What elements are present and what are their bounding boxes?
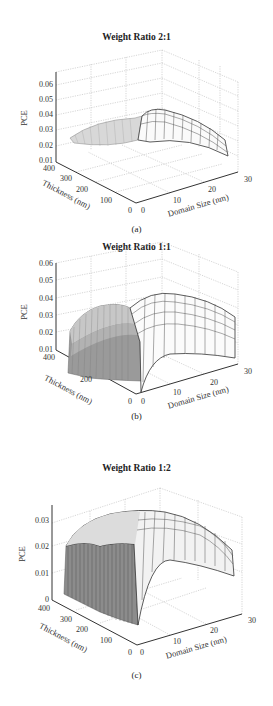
tick-label: 0 <box>141 397 145 406</box>
tick-label: 300 <box>60 174 72 183</box>
tick-label: 400 <box>38 604 50 613</box>
tick-label: 0.03 <box>39 311 53 320</box>
tick-label: 400 <box>43 164 55 173</box>
panel-c: Weight Ratio 1:2 <box>0 460 273 706</box>
tick-label: 10 <box>173 196 181 205</box>
z-axis-label-a: PCE <box>19 110 29 126</box>
tick-label: 30 <box>248 616 256 625</box>
tick-label: 0.02 <box>39 328 53 337</box>
z-axis-ticks-c: 0.03 0.02 0.01 0 <box>35 516 49 604</box>
tick-label: 0.04 <box>39 294 53 303</box>
tick-label: 0.05 <box>39 95 53 104</box>
z-axis-label-c: PCE <box>17 546 27 562</box>
tick-label: 30 <box>244 367 252 376</box>
tick-label: 0 <box>45 595 49 604</box>
surface-plot-b: 0.06 0.05 0.04 0.03 0.02 0.01 PCE 400 20… <box>0 232 273 460</box>
tick-label: 100 <box>100 636 112 645</box>
tick-label: 0.06 <box>39 259 53 268</box>
tick-label: 10 <box>173 637 181 646</box>
tick-label: 10 <box>173 388 181 397</box>
tick-label: 20 <box>210 626 218 635</box>
tick-label: 0 <box>128 648 132 657</box>
tick-label: 0.05 <box>39 276 53 285</box>
tick-label: 30 <box>244 175 252 184</box>
caption-c: (c) <box>0 670 273 680</box>
tick-label: 0 <box>128 206 132 215</box>
tick-label: 200 <box>76 625 88 634</box>
tick-label: 0.02 <box>39 141 53 150</box>
z-axis-label-b: PCE <box>19 304 29 320</box>
caption-b: (b) <box>0 411 273 421</box>
tick-label: 0.04 <box>39 110 53 119</box>
tick-label: 200 <box>76 185 88 194</box>
tick-label: 0.01 <box>35 569 49 578</box>
tick-label: 400 <box>43 353 55 362</box>
panel-b: Weight Ratio 1:1 <box>0 232 273 460</box>
tick-label: 0 <box>128 397 132 406</box>
tick-label: 0.03 <box>39 125 53 134</box>
tick-label: 0.06 <box>39 80 53 89</box>
tick-label: 20 <box>208 185 216 194</box>
tick-label: 200 <box>80 375 92 384</box>
panel-a: Weight Ratio 2:1 <box>0 0 273 232</box>
tick-label: 0 <box>140 648 144 657</box>
tick-label: 0 <box>141 206 145 215</box>
z-axis-ticks-a: 0.06 0.05 0.04 0.03 0.02 0.01 <box>39 80 53 165</box>
tick-label: 100 <box>100 196 112 205</box>
tick-label: 0.02 <box>35 542 49 551</box>
surface-plot-a: 0.06 0.05 0.04 0.03 0.02 0.01 PCE 400 30… <box>0 0 273 232</box>
tick-label: 300 <box>60 615 72 624</box>
z-axis-ticks-b: 0.06 0.05 0.04 0.03 0.02 0.01 <box>39 259 53 354</box>
tick-label: 0.03 <box>35 516 49 525</box>
